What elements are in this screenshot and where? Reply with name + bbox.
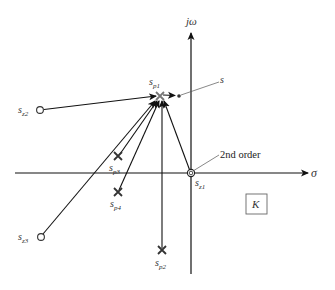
vector-sp4 [119,101,159,190]
vector-sp1 [163,95,175,96]
zero-circle-icon [37,107,44,114]
imag-axis-label: jω [184,15,197,27]
s-plane-diagram: jω σ s sp1 sp2 sp3 sp4 sz1 sz2 [0,0,335,290]
annotation-2nd-order: 2nd order [220,149,261,160]
pole-sp2: sp2 [155,246,166,271]
vector-sz3 [43,101,155,234]
pole-sp4-sub: p4 [113,204,122,212]
zero-sz3-sub: z3 [21,237,29,245]
zero-circle-icon [38,234,45,241]
svg-text:sp1: sp1 [149,76,160,90]
svg-text:sz1: sz1 [195,177,205,191]
pole-x-icon [114,152,122,160]
zero-sz2: sz2 [18,104,43,118]
vector-sz1 [164,101,190,171]
pole-sp4: sp4 [110,188,122,212]
zero-sz1-sub: z1 [198,183,205,191]
test-point-dot [177,94,181,98]
zero-sz3: sz3 [18,231,44,245]
pole-x-icon [156,92,164,100]
svg-text:sp4: sp4 [110,198,121,212]
vector-sz2 [44,96,156,110]
svg-text:sz3: sz3 [18,231,29,245]
pole-sp3-sub: p3 [112,168,121,176]
pole-x-icon [114,188,122,196]
annotation-leader [193,155,219,171]
svg-text:sz2: sz2 [18,104,29,118]
test-point-label: s [220,74,224,85]
zero-sz2-sub: z2 [21,110,29,118]
test-point-leader [181,82,219,95]
svg-text:sp3: sp3 [109,162,120,176]
gain-label: K [251,198,260,210]
svg-text:sp2: sp2 [155,257,166,271]
pole-sp2-sub: p2 [158,263,167,271]
real-axis-label: σ [311,166,318,180]
pole-sp1-sub: p1 [152,82,160,90]
